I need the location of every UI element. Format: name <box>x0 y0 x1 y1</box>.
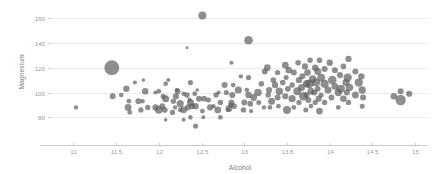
data-point <box>173 105 177 109</box>
data-point <box>352 92 359 99</box>
x-axis-title: Alcohol <box>229 164 252 171</box>
data-point <box>211 104 215 108</box>
data-point <box>171 99 176 104</box>
data-point <box>192 103 198 109</box>
x-tick-label: 13 <box>241 148 248 155</box>
data-point <box>343 73 351 81</box>
data-point <box>145 105 150 110</box>
bubbles-group <box>74 11 413 128</box>
data-point <box>283 106 291 114</box>
x-tick-label: 12 <box>156 148 163 155</box>
data-point <box>316 108 323 115</box>
data-point <box>138 107 143 112</box>
x-axis-group: 1111.51212.51313.51414.515 <box>40 143 428 155</box>
data-point <box>324 86 331 93</box>
data-point <box>360 104 365 109</box>
data-point <box>175 88 181 94</box>
data-point <box>315 86 321 92</box>
data-point <box>229 92 235 98</box>
data-point <box>214 107 221 114</box>
data-point <box>162 95 169 102</box>
y-tick-label: 100 <box>35 90 46 97</box>
data-point <box>135 98 141 104</box>
data-point <box>249 109 253 113</box>
data-point <box>177 100 184 107</box>
data-point <box>352 68 358 74</box>
data-point <box>241 99 247 105</box>
data-point <box>309 104 314 109</box>
data-point <box>127 99 132 104</box>
data-point <box>198 11 206 19</box>
data-point <box>74 105 78 109</box>
data-point <box>229 61 233 65</box>
data-point <box>140 99 144 103</box>
data-point <box>317 57 323 63</box>
data-point <box>119 93 124 98</box>
x-tick-label: 11 <box>70 148 77 155</box>
y-tick-label: 140 <box>35 40 46 47</box>
data-point <box>303 107 308 112</box>
data-point <box>319 92 324 97</box>
data-point <box>332 67 338 73</box>
data-point <box>272 82 278 88</box>
data-point <box>329 95 335 101</box>
data-point <box>302 63 308 69</box>
data-point <box>196 96 202 102</box>
data-point <box>346 84 354 92</box>
data-point <box>322 66 328 72</box>
data-point <box>337 85 345 93</box>
data-point <box>398 88 404 94</box>
data-point <box>276 88 283 95</box>
data-point <box>127 110 132 115</box>
data-point <box>163 82 168 87</box>
data-point <box>247 101 253 107</box>
data-point <box>266 87 272 93</box>
data-point <box>156 89 161 94</box>
data-point <box>264 64 271 71</box>
data-point <box>307 57 312 62</box>
y-axis-title: Magnesium <box>18 54 26 89</box>
data-point <box>295 60 301 66</box>
data-point <box>336 105 341 110</box>
data-point <box>345 56 351 62</box>
data-point <box>239 74 243 78</box>
data-point <box>289 95 296 102</box>
data-point <box>188 80 193 85</box>
data-point <box>186 46 189 49</box>
data-point <box>268 98 275 105</box>
x-tick-label: 11.5 <box>111 148 123 155</box>
data-point <box>360 94 366 100</box>
x-tick-label: 14.5 <box>366 148 379 155</box>
data-point <box>218 115 223 120</box>
data-point <box>142 78 146 82</box>
data-point <box>245 88 250 93</box>
data-point <box>231 83 236 88</box>
data-point <box>104 60 119 75</box>
data-point <box>192 91 197 96</box>
data-point <box>231 103 237 109</box>
data-point <box>358 73 364 79</box>
data-point <box>217 91 221 95</box>
data-point <box>395 95 405 105</box>
data-point <box>182 118 186 122</box>
x-tick-label: 12.5 <box>196 148 209 155</box>
data-point <box>262 105 266 109</box>
data-point <box>291 105 296 110</box>
data-point <box>170 110 175 115</box>
data-point <box>222 82 228 88</box>
data-point <box>340 95 347 102</box>
y-tick-label: 80 <box>38 114 45 121</box>
data-point <box>133 81 137 85</box>
data-point <box>341 64 347 70</box>
data-point <box>166 78 170 82</box>
data-point <box>188 115 193 120</box>
data-point <box>206 97 211 102</box>
data-point <box>164 118 168 122</box>
data-point <box>125 104 132 111</box>
data-point <box>327 59 333 65</box>
data-point <box>346 100 351 105</box>
y-axis-group: 80100120140160 <box>35 15 51 121</box>
data-point <box>289 82 294 87</box>
x-tick-label: 13.5 <box>281 148 294 155</box>
data-point <box>195 88 199 92</box>
